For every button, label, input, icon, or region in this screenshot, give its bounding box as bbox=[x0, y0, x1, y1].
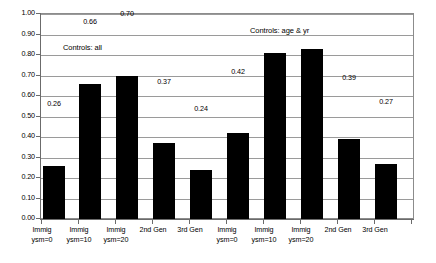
y-tick-mark bbox=[36, 54, 40, 55]
y-tick-mark bbox=[36, 157, 40, 158]
x-tick-mark bbox=[189, 220, 190, 224]
bar-group: 0.42 bbox=[227, 14, 249, 219]
category-label-line: ysm=0 bbox=[208, 235, 246, 245]
bar-chart: 0.26 0.66 0.70 0.37 0.24 0.42 0.81 0.83 bbox=[0, 0, 436, 263]
bar[interactable] bbox=[153, 143, 175, 219]
y-tick-label: 0.70 bbox=[0, 71, 35, 78]
x-tick-mark bbox=[152, 220, 153, 224]
category-label: Immig ysm=0 bbox=[208, 225, 246, 245]
category-label-line: Immig bbox=[60, 225, 98, 235]
y-tick-mark bbox=[36, 95, 40, 96]
y-tick-label: 0.50 bbox=[0, 112, 35, 119]
annotation-controls-age-yr: Controls: age & yr bbox=[250, 26, 309, 35]
bar-value-label: 0.27 bbox=[379, 98, 393, 105]
category-label: 2nd Gen bbox=[319, 225, 357, 235]
bar-group: 0.39 bbox=[338, 14, 360, 219]
bar[interactable] bbox=[338, 139, 360, 219]
y-tick-mark bbox=[36, 75, 40, 76]
x-axis-line bbox=[40, 219, 414, 220]
category-label: Immig ysm=20 bbox=[282, 225, 320, 245]
category-label-line: Immig bbox=[23, 225, 61, 235]
bar-value-label: 0.70 bbox=[120, 10, 134, 17]
bar[interactable] bbox=[43, 166, 65, 219]
bar[interactable] bbox=[79, 84, 101, 219]
category-label: 3rd Gen bbox=[171, 225, 209, 235]
bar-value-label: 0.66 bbox=[83, 18, 97, 25]
y-tick-label: 0.10 bbox=[0, 194, 35, 201]
bar[interactable] bbox=[190, 170, 212, 219]
x-tick-mark bbox=[41, 220, 42, 224]
y-tick-mark bbox=[36, 218, 40, 219]
x-tick-mark bbox=[78, 220, 79, 224]
category-label-line: 2nd Gen bbox=[134, 225, 172, 235]
bar-value-label: 0.39 bbox=[342, 74, 356, 81]
y-tick-label: 0.20 bbox=[0, 173, 35, 180]
bar-group: 0.83 bbox=[301, 14, 323, 219]
category-label-line: ysm=0 bbox=[23, 235, 61, 245]
y-tick-mark bbox=[36, 198, 40, 199]
x-tick-mark bbox=[337, 220, 338, 224]
category-label: Immig ysm=0 bbox=[23, 225, 61, 245]
y-tick-label: 0.30 bbox=[0, 153, 35, 160]
category-label-line: ysm=10 bbox=[245, 235, 283, 245]
y-tick-label: 0.60 bbox=[0, 91, 35, 98]
y-tick-label: 1.00 bbox=[0, 9, 35, 16]
category-label-line: Immig bbox=[282, 225, 320, 235]
bar-value-label: 0.26 bbox=[47, 100, 61, 107]
category-label-line: Immig bbox=[97, 225, 135, 235]
bar[interactable] bbox=[301, 49, 323, 219]
category-label-line: Immig bbox=[245, 225, 283, 235]
category-label-line: Immig bbox=[208, 225, 246, 235]
y-tick-mark bbox=[36, 177, 40, 178]
x-tick-mark bbox=[411, 220, 412, 224]
y-tick-label: 0.90 bbox=[0, 30, 35, 37]
x-tick-mark bbox=[374, 220, 375, 224]
category-label-line: 3rd Gen bbox=[356, 225, 394, 235]
category-label: Immig ysm=10 bbox=[245, 225, 283, 245]
bar[interactable] bbox=[227, 133, 249, 219]
category-label-line: 2nd Gen bbox=[319, 225, 357, 235]
y-tick-label: 0.40 bbox=[0, 132, 35, 139]
category-label: 3rd Gen bbox=[356, 225, 394, 235]
category-label: Immig ysm=10 bbox=[60, 225, 98, 245]
bar-group: 0.24 bbox=[190, 14, 212, 219]
category-label-line: 3rd Gen bbox=[171, 225, 209, 235]
category-label-line: ysm=20 bbox=[282, 235, 320, 245]
y-axis-line bbox=[40, 13, 41, 219]
y-tick-mark bbox=[36, 136, 40, 137]
category-label: 2nd Gen bbox=[134, 225, 172, 235]
x-tick-mark bbox=[300, 220, 301, 224]
bar-value-label: 0.24 bbox=[194, 105, 208, 112]
bar[interactable] bbox=[116, 76, 138, 220]
annotation-controls-all: Controls: all bbox=[63, 43, 102, 52]
bar-value-label: 0.37 bbox=[157, 78, 171, 85]
bar-group: 0.26 bbox=[43, 14, 65, 219]
x-tick-mark bbox=[226, 220, 227, 224]
y-tick-label: 0.80 bbox=[0, 50, 35, 57]
x-tick-mark bbox=[115, 220, 116, 224]
category-label: Immig ysm=20 bbox=[97, 225, 135, 245]
category-label-line: ysm=10 bbox=[60, 235, 98, 245]
y-tick-mark bbox=[36, 13, 40, 14]
bar[interactable] bbox=[375, 164, 397, 219]
bar-group: 0.27 bbox=[375, 14, 397, 219]
bar-value-label: 0.42 bbox=[231, 68, 245, 75]
bar[interactable] bbox=[264, 53, 286, 219]
y-tick-mark bbox=[36, 34, 40, 35]
category-label-line: ysm=20 bbox=[97, 235, 135, 245]
x-tick-mark bbox=[263, 220, 264, 224]
bar-group: 0.70 bbox=[116, 14, 138, 219]
bar-group: 0.81 bbox=[264, 14, 286, 219]
bar-group: 0.37 bbox=[153, 14, 175, 219]
y-tick-mark bbox=[36, 116, 40, 117]
y-tick-label: 0.00 bbox=[0, 214, 35, 221]
